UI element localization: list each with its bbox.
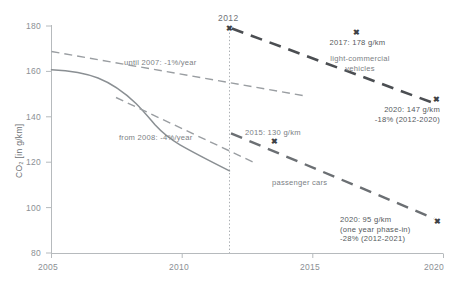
lcv-2020-reduction-label: -18% (2012-2020)	[318, 115, 440, 125]
until-2007-trend-label: until 2007: -1%/year	[124, 58, 197, 68]
lcv-2017-label: 2017: 178 g/km	[310, 38, 405, 48]
y-axis-title: CO₂ [in g/km]	[14, 124, 24, 178]
marker-lcv-2017: ✖	[353, 29, 360, 37]
marker-cars-2015: ✖	[271, 138, 278, 146]
y-tick-label-140: 140	[26, 112, 41, 122]
marker-lcv-2020: ✖	[433, 96, 440, 104]
cars-2015-label: 2015: 130 g/km	[245, 128, 301, 138]
x-tick-label-2020: 2020	[424, 262, 444, 272]
x-axis-ticks	[52, 254, 444, 259]
cars-2020-label: 2020: 95 g/km	[340, 215, 391, 225]
x-tick-label-2015: 2015	[300, 262, 320, 272]
reference-line-label-2012: 2012	[218, 13, 239, 23]
cars-series-label: passenger cars	[272, 178, 327, 188]
y-tick-label-100: 100	[26, 203, 41, 213]
from-2008-trend-label: from 2008: -4%/year	[119, 133, 193, 143]
cars-target-path	[231, 133, 434, 218]
x-tick-label-2005: 2005	[38, 262, 58, 272]
co2-emission-targets-chart: CO₂ [in g/km] 180 160 140 120 100 80 200…	[0, 0, 455, 284]
lcv-series-label-line2: vehicles	[315, 64, 405, 74]
lcv-2020-label: 2020: 147 g/km	[318, 105, 440, 115]
from-2008-trend-line	[116, 98, 253, 163]
y-tick-label-160: 160	[26, 66, 41, 76]
y-tick-label-80: 80	[31, 248, 41, 258]
cars-2020-phasein-label: (one year phase-in)	[340, 225, 411, 235]
lcv-series-label-line1: light-commercial	[315, 54, 405, 64]
marker-cars-2020: ✖	[434, 218, 441, 226]
marker-lcv-2012: ✖	[226, 25, 233, 33]
y-tick-label-120: 120	[26, 157, 41, 167]
y-axis-ticks	[46, 26, 52, 253]
historic-co2-curve	[52, 70, 230, 171]
x-tick-label-2010: 2010	[169, 262, 189, 272]
cars-2020-reduction-label: -28% (2012-2021)	[340, 234, 405, 244]
y-tick-label-180: 180	[26, 21, 41, 31]
